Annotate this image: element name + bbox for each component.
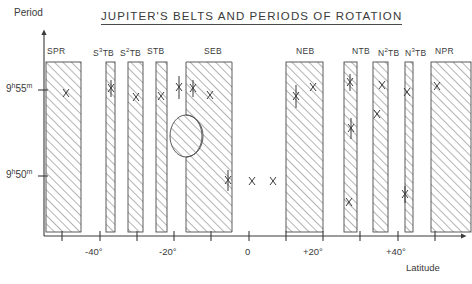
plot-canvas [0, 0, 472, 284]
band-npr [431, 62, 471, 232]
data-point [270, 177, 276, 185]
band-s2tb [128, 62, 143, 232]
band-n3tb [405, 62, 413, 232]
data-point [249, 177, 255, 185]
band-stb [156, 62, 167, 232]
data-point [176, 76, 182, 99]
band-neb [286, 62, 323, 232]
great-red-spot-oval [170, 115, 202, 157]
belt-bands [46, 62, 471, 232]
band-spr [46, 62, 81, 232]
figure-jupiter-belts-periods: JUPITER'S BELTS AND PERIODS OF ROTATION … [0, 0, 472, 284]
